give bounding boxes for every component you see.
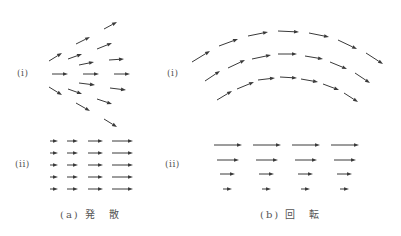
panel-a-sub-i-label: (i) <box>17 68 28 78</box>
arrow-icon <box>97 99 112 104</box>
arrow-icon <box>305 56 323 60</box>
arrow-icon <box>309 33 329 38</box>
arrow-icon <box>88 139 103 143</box>
arrow-icon <box>79 83 95 87</box>
arrow-icon <box>217 91 232 100</box>
arrow-icon <box>112 139 133 143</box>
panel-a-divergence-i-arrows <box>49 22 130 127</box>
arrow-icon <box>228 60 245 68</box>
panel-b-rotation-i-arrows <box>192 30 383 102</box>
arrow-icon <box>50 187 58 191</box>
arrow-icon <box>344 93 358 102</box>
arrow-icon <box>248 31 268 36</box>
arrow-icon <box>49 53 62 61</box>
arrow-icon <box>301 187 310 191</box>
arrow-icon <box>237 82 254 89</box>
arrow-icon <box>114 72 130 76</box>
arrow-icon <box>109 58 124 62</box>
arrow-icon <box>205 71 220 81</box>
arrow-icon <box>67 175 78 179</box>
arrow-icon <box>112 187 133 191</box>
arrow-icon <box>104 119 117 127</box>
arrow-icon <box>330 62 347 69</box>
panel-b-rotation-ii-arrows <box>214 143 359 191</box>
arrow-icon <box>217 158 239 162</box>
arrow-icon <box>292 143 320 147</box>
panel-b-caption: (b) 回 転 <box>260 206 321 221</box>
arrow-icon <box>83 72 99 76</box>
arrow-icon <box>67 187 78 191</box>
arrow-icon <box>192 51 210 62</box>
arrow-icon <box>219 39 238 46</box>
arrow-icon <box>220 172 235 176</box>
arrow-icon <box>76 37 90 44</box>
arrow-icon <box>340 187 349 191</box>
arrow-icon <box>278 52 297 56</box>
arrow-icon <box>112 151 133 155</box>
arrow-icon <box>253 143 281 147</box>
arrow-icon <box>278 30 299 34</box>
arrow-icon <box>112 163 133 167</box>
arrow-icon <box>337 172 352 176</box>
arrow-icon <box>214 143 242 147</box>
panel-a-caption: (a) 発 散 <box>60 206 121 221</box>
arrow-icon <box>88 187 103 191</box>
arrow-icon <box>67 139 78 143</box>
arrow-icon <box>79 61 94 65</box>
arrow-icon <box>223 187 232 191</box>
arrow-icon <box>295 158 317 162</box>
arrow-icon <box>323 84 339 90</box>
arrow-icon <box>67 151 78 155</box>
vector-field-figure <box>0 0 401 236</box>
arrow-icon <box>97 43 112 49</box>
arrow-icon <box>334 158 356 162</box>
arrow-icon <box>259 172 274 176</box>
arrow-icon <box>67 163 78 167</box>
arrow-icon <box>355 73 370 83</box>
panel-b-sub-i-label: (i) <box>167 68 178 78</box>
panel-b-sub-ii-label: (ii) <box>165 159 180 169</box>
arrow-icon <box>366 53 383 64</box>
arrow-icon <box>52 72 68 76</box>
arrow-icon <box>50 175 58 179</box>
arrow-icon <box>88 163 103 167</box>
arrow-icon <box>49 87 62 95</box>
arrow-icon <box>76 103 90 111</box>
arrow-icon <box>50 163 58 167</box>
arrow-icon <box>68 54 82 59</box>
arrow-icon <box>68 89 82 94</box>
arrow-icon <box>338 40 357 49</box>
arrow-icon <box>280 76 297 80</box>
arrow-icon <box>252 54 271 59</box>
arrow-icon <box>301 79 318 83</box>
arrow-icon <box>298 172 313 176</box>
arrow-icon <box>88 151 103 155</box>
arrow-icon <box>258 77 275 81</box>
panel-a-sub-ii-label: (ii) <box>15 159 30 169</box>
arrow-icon <box>331 143 359 147</box>
arrow-icon <box>112 175 133 179</box>
arrow-icon <box>88 175 103 179</box>
arrow-icon <box>262 187 271 191</box>
arrow-icon <box>50 151 58 155</box>
arrow-icon <box>110 88 126 92</box>
arrow-icon <box>256 158 278 162</box>
panel-a-divergence-ii-arrows <box>50 139 133 191</box>
arrow-icon <box>104 22 117 29</box>
arrow-icon <box>50 139 58 143</box>
